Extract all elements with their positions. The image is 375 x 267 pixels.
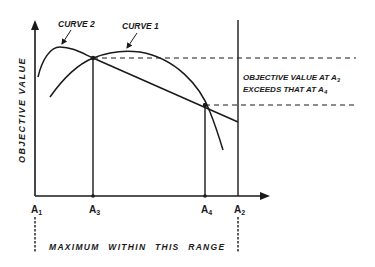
annotation-line-2: EXCEEDS THAT AT A4 — [243, 85, 328, 95]
curve-1-pointer-arrow — [127, 33, 137, 48]
annotation-line-1: OBJECTIVE VALUE AT A3 — [243, 73, 341, 83]
curve-2-pointer-arrow — [62, 30, 71, 44]
a4-label: A4 — [201, 204, 212, 216]
y-axis-label: OBJECTIVE VALUE — [17, 57, 27, 163]
range-label: MAXIMUM WITHIN THIS RANGE — [49, 242, 225, 252]
a3-label: A3 — [89, 204, 100, 216]
a2-label: A2 — [234, 204, 245, 216]
a4-axis-tick — [203, 194, 207, 198]
curve-1-label: CURVE 1 — [122, 21, 159, 31]
a3-axis-tick — [91, 194, 95, 198]
objective-value-diagram: OBJECTIVE VALUE CURVE 2 CURVE 1 OBJECTIV… — [0, 0, 375, 267]
a1-label: A1 — [31, 204, 42, 216]
curve-1 — [50, 51, 223, 150]
curve-2-label: CURVE 2 — [58, 19, 95, 29]
